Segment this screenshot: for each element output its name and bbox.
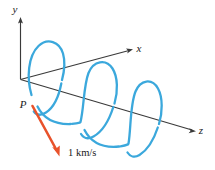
helix-turn-1-right — [34, 84, 62, 115]
x-axis-label: x — [136, 42, 142, 54]
z-axis-label: z — [198, 124, 204, 136]
z-axis-arrowhead — [189, 128, 196, 133]
helix-turn-1-bottom — [38, 107, 71, 125]
helix-path-group — [29, 41, 162, 156]
helix-turn-3-right — [128, 128, 158, 157]
axes-group: y x z — [12, 3, 204, 136]
helix-connector-1 — [72, 123, 80, 124]
x-axis-line — [21, 51, 130, 80]
helix-connector-2 — [121, 144, 129, 146]
point-p-label: P — [19, 98, 27, 110]
y-axis-label: y — [12, 3, 18, 15]
helix-diagram-svg: y x z 1 — [0, 0, 215, 170]
helix-figure: y x z 1 — [0, 0, 215, 170]
velocity-magnitude-label: 1 km/s — [68, 147, 96, 158]
helix-turn-2-bottom — [85, 130, 120, 147]
point-p-group: P — [19, 98, 27, 110]
